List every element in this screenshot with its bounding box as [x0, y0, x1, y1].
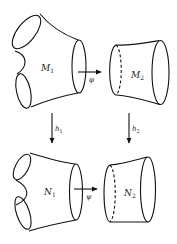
n1-top-left-boundary [10, 152, 35, 183]
m2-top-edge [116, 41, 159, 46]
n2-left-boundary-front [104, 165, 110, 222]
n2-left-boundary-back [110, 165, 115, 222]
label-m1: M1 [40, 63, 54, 74]
m1-top-edge [40, 14, 78, 40]
label-phi: φ [89, 76, 94, 84]
diagram-canvas: M1 M2 N1 N2 φ ψ h1 h2 [0, 0, 177, 244]
label-n1: N1 [43, 187, 56, 198]
m2-bottom-edge [116, 95, 160, 105]
n2-right-boundary [141, 157, 156, 222]
label-n2: N2 [123, 188, 136, 199]
n1-bottom-edge [29, 220, 76, 231]
label-h1: h1 [55, 125, 63, 134]
m1-right-boundary [72, 40, 86, 93]
label-h2: h2 [132, 125, 140, 134]
n1-crotch [16, 180, 27, 205]
n1-top-edge [30, 153, 75, 164]
label-m2: M2 [130, 70, 144, 81]
m2-left-boundary-front [110, 45, 116, 95]
manifold-m1 [7, 11, 86, 110]
m2-left-boundary-back [116, 45, 121, 95]
m1-bottom-edge [31, 93, 78, 107]
n1-right-boundary [70, 164, 83, 220]
m1-top-left-boundary [7, 11, 46, 54]
m1-crotch [15, 51, 25, 74]
m2-right-boundary [152, 41, 169, 105]
n2-top-edge [110, 157, 147, 165]
m1-bottom-left-boundary [13, 72, 34, 109]
label-psi: ψ [86, 193, 92, 201]
